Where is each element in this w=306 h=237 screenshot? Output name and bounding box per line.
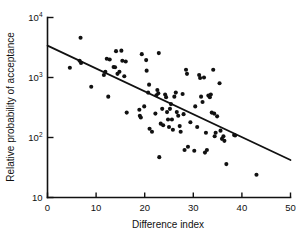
data-point <box>156 91 160 95</box>
data-point <box>217 81 221 85</box>
data-point <box>119 49 123 53</box>
data-points <box>68 36 259 177</box>
data-point <box>215 114 219 118</box>
data-point <box>142 104 146 108</box>
x-tick-label: 20 <box>139 202 150 213</box>
data-point <box>103 70 107 74</box>
x-tick-label: 40 <box>237 202 248 213</box>
data-point <box>120 59 124 63</box>
data-point <box>167 125 171 129</box>
data-point <box>168 107 172 111</box>
data-point <box>79 61 83 65</box>
data-point <box>146 91 150 95</box>
data-point <box>137 108 141 112</box>
data-point <box>186 145 190 149</box>
x-tick-label: 50 <box>285 202 296 213</box>
data-point <box>157 51 161 55</box>
scatter-plot-figure: 0102030405010102103104 Difference index … <box>0 0 306 237</box>
regression-line <box>48 46 291 160</box>
data-point <box>200 100 204 104</box>
data-point <box>161 123 165 127</box>
x-axis-title: Difference index <box>132 219 204 230</box>
data-point <box>218 129 222 133</box>
data-point <box>181 92 185 96</box>
x-tick-label: 10 <box>91 202 102 213</box>
data-point <box>166 117 170 121</box>
y-tick-label: 103 <box>28 71 43 83</box>
data-point <box>164 95 168 99</box>
data-point <box>205 148 209 152</box>
data-point <box>139 116 143 120</box>
data-point <box>78 36 82 40</box>
data-point <box>169 102 173 106</box>
data-point <box>254 173 258 177</box>
data-point <box>211 68 215 72</box>
data-point <box>193 104 197 108</box>
data-point <box>221 134 225 138</box>
fit-line <box>48 46 291 160</box>
data-point <box>204 131 208 135</box>
data-point <box>213 134 217 138</box>
data-point <box>224 162 228 166</box>
data-point <box>108 57 112 61</box>
x-tick-label: 0 <box>45 202 50 213</box>
data-point <box>124 59 128 63</box>
data-point <box>199 95 203 99</box>
x-tick-label: 30 <box>188 202 199 213</box>
data-point <box>144 58 148 62</box>
data-point <box>150 130 154 134</box>
data-point <box>178 124 182 128</box>
data-point <box>202 75 206 79</box>
data-point <box>233 133 237 137</box>
y-tick-label: 104 <box>28 11 43 23</box>
data-point <box>113 65 117 69</box>
data-point <box>222 139 226 143</box>
data-point <box>106 95 110 99</box>
data-point <box>209 92 213 96</box>
data-point <box>195 125 199 129</box>
data-point <box>175 110 179 114</box>
data-point <box>114 49 118 53</box>
data-point <box>171 128 175 132</box>
data-point <box>160 107 164 111</box>
data-point <box>125 111 129 115</box>
plot-canvas: 0102030405010102103104 Difference index … <box>0 0 306 237</box>
tick-labels: 0102030405010102103104 <box>28 11 295 213</box>
data-point <box>165 110 169 114</box>
data-point <box>122 74 126 78</box>
data-point <box>145 69 149 73</box>
data-point <box>182 112 186 116</box>
data-point <box>185 72 189 76</box>
y-axis-title: Relative probability of acceptance <box>5 32 16 182</box>
data-point <box>157 155 161 159</box>
data-point <box>172 95 176 99</box>
data-point <box>183 148 187 152</box>
data-point <box>198 76 202 80</box>
data-point <box>179 130 183 134</box>
data-point <box>68 66 72 70</box>
data-point <box>89 85 93 89</box>
y-tick-label: 10 <box>32 192 43 203</box>
data-point <box>147 83 151 87</box>
data-point <box>176 114 180 118</box>
data-point <box>188 120 192 124</box>
data-point <box>117 70 121 74</box>
data-point <box>170 117 174 121</box>
data-point <box>184 68 188 72</box>
data-point <box>174 91 178 95</box>
data-point <box>214 131 218 135</box>
y-tick-label: 102 <box>28 131 43 143</box>
data-point <box>153 112 157 116</box>
data-point <box>192 149 196 153</box>
data-point <box>140 52 144 56</box>
